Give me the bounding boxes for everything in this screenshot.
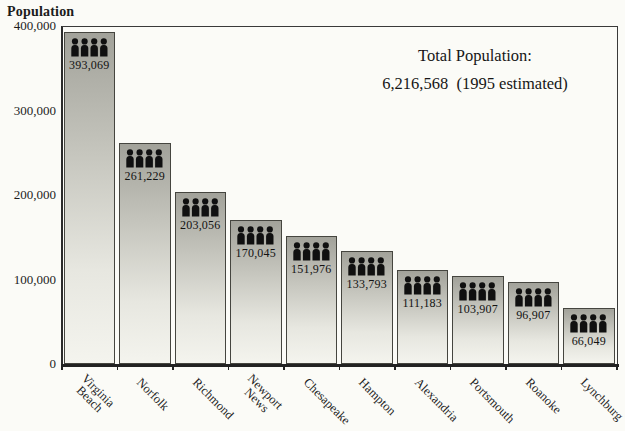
people-icon bbox=[403, 276, 442, 295]
people-icon bbox=[569, 314, 608, 333]
bar-value-label: 111,183 bbox=[398, 297, 448, 310]
bar-virginia-beach: 393,069 bbox=[64, 32, 116, 364]
bar-newport-news: 170,045 bbox=[230, 220, 282, 364]
y-tick-label: 300,000 bbox=[0, 103, 56, 119]
population-bar-chart: Population 400,000300,000200,000100,0000… bbox=[0, 0, 625, 431]
bar-hampton: 133,793 bbox=[341, 251, 393, 364]
bar-value-label: 103,907 bbox=[453, 303, 503, 316]
bar-value-label: 151,976 bbox=[287, 263, 337, 276]
x-axis-tick bbox=[339, 366, 341, 370]
people-icon bbox=[125, 149, 164, 168]
x-axis-tick bbox=[450, 366, 452, 370]
x-axis-tick bbox=[394, 366, 396, 370]
y-tick-label: 0 bbox=[0, 356, 56, 372]
bar-roanoke: 96,907 bbox=[508, 282, 560, 364]
bar-value-label: 170,045 bbox=[231, 247, 281, 260]
people-icon bbox=[347, 257, 386, 276]
total-population-annotation: Total Population: 6,216,568 (1995 estima… bbox=[340, 42, 610, 98]
y-tick-label: 400,000 bbox=[0, 18, 56, 34]
x-axis-tick bbox=[61, 366, 63, 370]
y-tick-label: 200,000 bbox=[0, 187, 56, 203]
x-axis-tick bbox=[172, 366, 174, 370]
bar-alexandria: 111,183 bbox=[397, 270, 449, 364]
people-icon bbox=[181, 198, 220, 217]
bar-value-label: 66,049 bbox=[564, 335, 614, 348]
people-icon bbox=[514, 288, 553, 307]
bar-richmond: 203,056 bbox=[175, 192, 227, 364]
x-axis-tick bbox=[616, 366, 618, 370]
annotation-line2: 6,216,568 (1995 estimated) bbox=[340, 70, 610, 98]
bar-norfolk: 261,229 bbox=[119, 143, 171, 364]
people-icon bbox=[70, 38, 109, 57]
bar-lynchburg: 66,049 bbox=[563, 308, 615, 364]
y-tick-label: 100,000 bbox=[0, 272, 56, 288]
bar-chesapeake: 151,976 bbox=[286, 236, 338, 364]
bar-value-label: 133,793 bbox=[342, 278, 392, 291]
bar-value-label: 96,907 bbox=[509, 309, 559, 322]
x-axis-tick bbox=[228, 366, 230, 370]
people-icon bbox=[236, 226, 275, 245]
x-axis-tick bbox=[561, 366, 563, 370]
x-axis-tick bbox=[117, 366, 119, 370]
bar-portsmouth: 103,907 bbox=[452, 276, 504, 364]
people-icon bbox=[292, 242, 331, 261]
bar-value-label: 203,056 bbox=[176, 219, 226, 232]
annotation-line1: Total Population: bbox=[340, 42, 610, 70]
bar-value-label: 393,069 bbox=[65, 59, 115, 72]
people-icon bbox=[458, 282, 497, 301]
x-axis-tick bbox=[283, 366, 285, 370]
x-axis-tick bbox=[505, 366, 507, 370]
bar-value-label: 261,229 bbox=[120, 170, 170, 183]
